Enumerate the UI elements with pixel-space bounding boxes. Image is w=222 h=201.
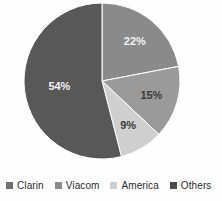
pie-data-label-viacom: 22%: [124, 35, 146, 47]
pie-data-label-others: 54%: [48, 80, 70, 92]
legend-item-clarin[interactable]: Clarin: [6, 180, 44, 191]
legend-item-label: Others: [181, 180, 212, 191]
legend-item-label: Clarin: [17, 180, 44, 191]
legend-item-viacom[interactable]: Viacom: [55, 180, 100, 191]
square-swatch-icon: [170, 182, 177, 189]
pie-data-label-clarin: 15%: [140, 89, 162, 101]
pie-plot-area: 22%15%9%54%: [0, 0, 222, 168]
legend-item-label: Viacom: [66, 180, 100, 191]
square-swatch-icon: [6, 182, 13, 189]
legend-item-others[interactable]: Others: [170, 180, 212, 191]
pie-chart-svg: 22%15%9%54%: [0, 0, 222, 168]
square-swatch-icon: [110, 182, 117, 189]
legend-item-america[interactable]: America: [110, 180, 158, 191]
chart-legend: ClarinViacomAmericaOthers: [0, 176, 222, 194]
pie-data-label-america: 9%: [120, 119, 136, 131]
square-swatch-icon: [55, 182, 62, 189]
legend-item-label: America: [121, 180, 158, 191]
pie-chart-figure: 22%15%9%54% ClarinViacomAmericaOthers: [0, 0, 222, 201]
